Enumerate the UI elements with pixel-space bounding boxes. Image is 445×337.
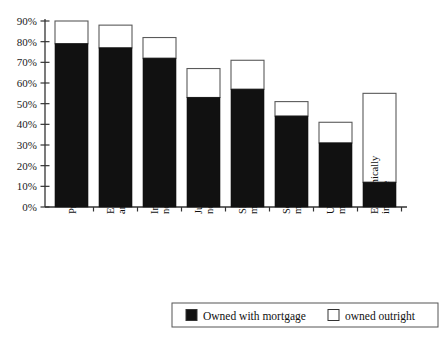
legend-item-label: owned outright (345, 310, 416, 323)
y-axis-tick-label: 40% (17, 118, 37, 130)
legend-item-label: Owned with mortgage (203, 310, 306, 323)
category-label: Employers (105, 169, 116, 215)
category-label: Skilled (237, 183, 248, 214)
bar-segment-owned-outright (231, 60, 264, 89)
y-axis-tick-label: 10% (17, 180, 37, 192)
category-label: inactive (380, 180, 391, 214)
bar-segment-owned-outright (275, 102, 308, 116)
y-axis-tick-label: 30% (17, 139, 37, 151)
category-label: Junior (193, 187, 204, 214)
bar-segment-owned-outright (55, 21, 88, 44)
legend-swatch (186, 310, 197, 321)
bar-segment-owned-outright (319, 122, 352, 143)
bar-segment-owned-outright (187, 69, 220, 98)
category-label: non-manual (160, 164, 171, 214)
category-label: manual (336, 183, 347, 214)
legend-swatch (328, 310, 339, 321)
category-label: manual (292, 183, 303, 214)
category-label: Intermediate (149, 161, 160, 214)
chart-legend: Owned with mortgageowned outright (172, 303, 438, 327)
category-label: non-manual (204, 164, 215, 214)
category-label: Professional (67, 162, 78, 214)
chart-canvas: 0%10%20%30%40%50%60%70%80%90% Profession… (0, 0, 445, 337)
bar-segment-owned-outright (99, 25, 132, 48)
category-label: Economically (369, 155, 380, 214)
bar-segment-owned-outright (143, 38, 176, 59)
y-axis-tick-label: 70% (17, 56, 37, 68)
category-label: Semi-skilled (281, 160, 292, 214)
y-axis-tick-label: 20% (17, 160, 37, 172)
y-axis-tick-label: 50% (17, 98, 37, 110)
y-axis-tick-label: 80% (17, 36, 37, 48)
category-label: Unskilled (325, 172, 336, 214)
y-axis-tick-label: 0% (22, 201, 37, 213)
y-axis-tick-label: 90% (17, 15, 37, 27)
stacked-bar-chart: 0%10%20%30%40%50%60%70%80%90% Profession… (0, 0, 445, 337)
category-label: manual (248, 183, 259, 214)
y-axis-tick-label: 60% (17, 77, 37, 89)
category-label: and managers (116, 156, 127, 214)
